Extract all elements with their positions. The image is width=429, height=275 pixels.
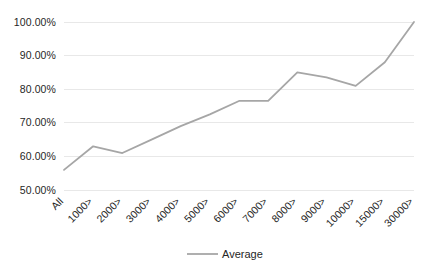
chart-canvas: 50.00%60.00%70.00%80.00%90.00%100.00% Al… bbox=[0, 0, 429, 275]
line-chart: 50.00%60.00%70.00%80.00%90.00%100.00% Al… bbox=[0, 0, 429, 275]
y-tick-label: 50.00% bbox=[20, 184, 56, 196]
y-tick-label: 70.00% bbox=[20, 116, 56, 128]
y-tick-label: 60.00% bbox=[20, 150, 56, 162]
legend-label-average: Average bbox=[222, 248, 263, 260]
chart-background bbox=[0, 0, 429, 275]
y-tick-label: 90.00% bbox=[20, 49, 56, 61]
y-tick-label: 100.00% bbox=[14, 16, 56, 28]
y-tick-label: 80.00% bbox=[20, 83, 56, 95]
